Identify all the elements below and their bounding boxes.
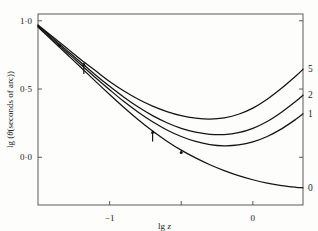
curve-label-2: 2 <box>308 90 313 100</box>
curve-5 <box>38 25 303 119</box>
curve-1 <box>38 26 303 146</box>
x-tick-label-0: −1 <box>105 213 115 223</box>
curve-label-5: 5 <box>308 64 313 74</box>
curve-2 <box>38 26 303 135</box>
y-tick-label-0: 1·0 <box>20 16 32 26</box>
x-tick-label-2: 0 <box>251 213 256 223</box>
dot-marker-3 <box>58 44 61 47</box>
curve-label-0: 0 <box>308 183 313 193</box>
x-axis-title: lg z <box>158 221 171 231</box>
chart-plot: −101·00·50·0 5210 lg zlg (θ(seconds of a… <box>0 0 318 231</box>
figure-container: −101·00·50·0 5210 lg zlg (θ(seconds of a… <box>0 0 318 231</box>
axes-frame <box>38 14 303 205</box>
plot-frame <box>38 14 303 205</box>
y-tick-label-2: 0·0 <box>20 152 32 162</box>
curve-0 <box>38 27 303 188</box>
curve-label-1: 1 <box>308 109 313 119</box>
axis-titles-group: lg zlg (θ(seconds of arc)) <box>5 71 171 231</box>
curve-series-group <box>38 25 303 188</box>
y-axis-title: lg (θ(seconds of arc)) <box>5 71 15 148</box>
dot-marker-2 <box>180 151 183 154</box>
y-tick-label-1: 0·5 <box>20 84 32 94</box>
curve-labels-group: 5210 <box>308 64 313 193</box>
